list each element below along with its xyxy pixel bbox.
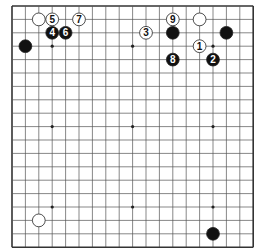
black-stone (19, 40, 32, 53)
go-board: 574639182 (0, 0, 261, 249)
star-point (51, 125, 54, 128)
black-stone (220, 26, 233, 39)
white-stone (32, 214, 45, 227)
move-number: 5 (49, 14, 55, 25)
star-point (131, 125, 134, 128)
move-number: 1 (197, 41, 203, 52)
star-point (131, 205, 134, 208)
star-point (211, 45, 214, 48)
star-point (211, 125, 214, 128)
black-stone (207, 227, 220, 240)
move-number: 3 (143, 27, 149, 38)
white-stone (32, 13, 45, 26)
move-number: 9 (170, 14, 176, 25)
move-number: 2 (210, 54, 216, 65)
star-point (51, 205, 54, 208)
star-point (131, 45, 134, 48)
move-number: 4 (49, 27, 55, 38)
move-number: 8 (170, 54, 176, 65)
move-number: 6 (63, 27, 69, 38)
star-point (51, 45, 54, 48)
white-stone (193, 13, 206, 26)
star-point (211, 205, 214, 208)
move-number: 7 (76, 14, 82, 25)
black-stone (166, 26, 179, 39)
